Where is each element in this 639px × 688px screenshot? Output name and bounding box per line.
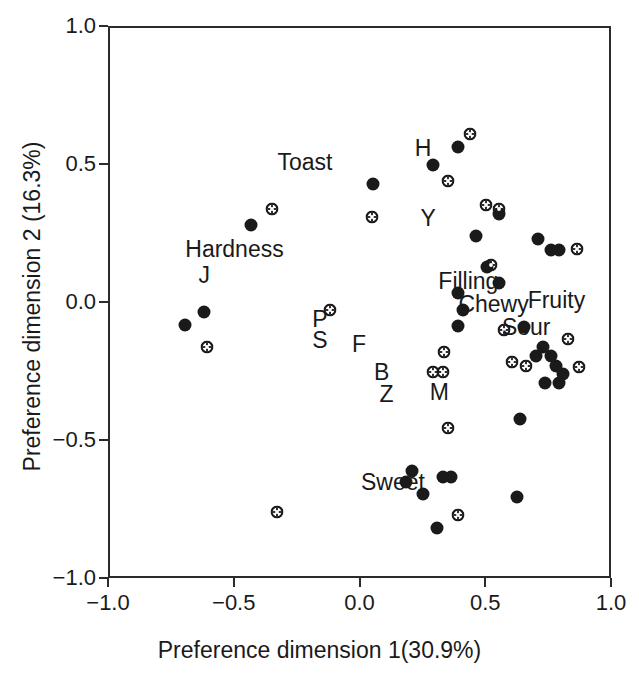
plot-area: ToastHardnessJHYFillingChewyFruitySourPS… — [108, 26, 611, 578]
point-label: Y — [420, 205, 435, 232]
filled-circle-marker — [244, 219, 257, 232]
y-axis-tick-label: −1.0 — [53, 565, 96, 591]
y-axis-tick-label: 0.0 — [65, 289, 96, 315]
x-axis-tick — [233, 578, 235, 587]
x-axis-tick-label: 0.0 — [344, 590, 375, 616]
point-label: M — [430, 379, 449, 406]
point-label: Toast — [277, 148, 332, 175]
point-label: H — [415, 135, 432, 162]
y-axis-tick — [99, 439, 108, 441]
open-circle-marker — [271, 506, 284, 519]
x-axis-tick — [107, 578, 109, 587]
open-circle-marker — [479, 198, 492, 211]
filled-circle-marker — [198, 306, 211, 319]
filled-circle-marker — [552, 244, 565, 257]
filled-circle-marker — [469, 230, 482, 243]
open-circle-marker — [442, 175, 455, 188]
y-axis-tick — [99, 163, 108, 165]
y-axis-tick-label: −0.5 — [53, 427, 96, 453]
x-axis-tick-label: −1.0 — [86, 590, 129, 616]
scatter-plot-figure: ToastHardnessJHYFillingChewyFruitySourPS… — [0, 0, 639, 688]
x-axis-tick-label: −0.5 — [212, 590, 255, 616]
open-circle-marker — [200, 340, 213, 353]
y-axis-tick-label: 1.0 — [65, 13, 96, 39]
y-axis-tick — [99, 301, 108, 303]
filled-circle-marker — [430, 521, 443, 534]
y-axis-tick — [99, 25, 108, 27]
point-label: J — [199, 262, 211, 289]
filled-circle-marker — [511, 491, 524, 504]
filled-circle-marker — [539, 376, 552, 389]
x-axis-tick — [610, 578, 612, 587]
filled-circle-marker — [513, 412, 526, 425]
open-circle-marker — [561, 332, 574, 345]
y-axis-title: Preference dimension 2 (16.3%) — [19, 27, 46, 587]
open-circle-marker — [442, 422, 455, 435]
point-label: S — [312, 326, 327, 353]
filled-circle-marker — [452, 140, 465, 153]
filled-circle-marker — [444, 470, 457, 483]
filled-circle-marker — [452, 320, 465, 333]
point-label: F — [352, 331, 366, 358]
filled-circle-marker — [531, 233, 544, 246]
filled-circle-marker — [552, 376, 565, 389]
open-circle-marker — [573, 361, 586, 374]
filled-circle-marker — [179, 318, 192, 331]
open-circle-marker — [266, 202, 279, 215]
filled-circle-marker — [366, 177, 379, 190]
open-circle-marker — [437, 365, 450, 378]
open-circle-marker — [438, 346, 451, 359]
y-axis-tick-label: 0.5 — [65, 151, 96, 177]
point-label: Hardness — [185, 235, 283, 262]
point-label: Sweet — [361, 469, 425, 496]
open-circle-marker — [520, 360, 533, 373]
x-axis-tick — [359, 578, 361, 587]
open-circle-marker — [570, 242, 583, 255]
point-label: Sour — [502, 314, 551, 341]
x-axis-tick-label: 1.0 — [596, 590, 627, 616]
x-axis-tick-label: 0.5 — [470, 590, 501, 616]
open-circle-marker — [365, 211, 378, 224]
open-circle-marker — [463, 128, 476, 141]
x-axis-tick — [484, 578, 486, 587]
open-circle-marker — [492, 202, 505, 215]
open-circle-marker — [452, 509, 465, 522]
open-circle-marker — [506, 355, 519, 368]
y-axis-tick — [99, 577, 108, 579]
point-label: Z — [380, 380, 394, 407]
point-label: Fruity — [528, 286, 586, 313]
x-axis-title: Preference dimension 1(30.9%) — [0, 637, 639, 664]
